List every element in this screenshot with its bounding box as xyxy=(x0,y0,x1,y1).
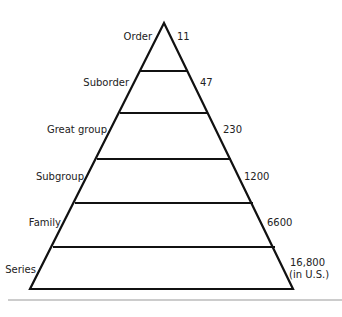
level-count-series: 16,800 xyxy=(290,257,325,268)
level-name-order: Order xyxy=(124,31,152,42)
level-name-subgroup: Subgroup xyxy=(36,171,84,182)
level-count-series-note: (in U.S.) xyxy=(289,269,329,280)
level-name-suborder: Suborder xyxy=(83,77,129,88)
level-count-subgroup: 1200 xyxy=(244,171,269,182)
level-name-great-group: Great group xyxy=(47,124,107,135)
level-count-order: 11 xyxy=(177,31,190,42)
level-count-great-group: 230 xyxy=(223,124,242,135)
level-count-family: 6600 xyxy=(267,217,292,228)
level-count-suborder: 47 xyxy=(200,77,213,88)
level-name-family: Family xyxy=(29,217,61,228)
pyramid-outline xyxy=(30,23,293,289)
level-name-series: Series xyxy=(5,264,36,275)
